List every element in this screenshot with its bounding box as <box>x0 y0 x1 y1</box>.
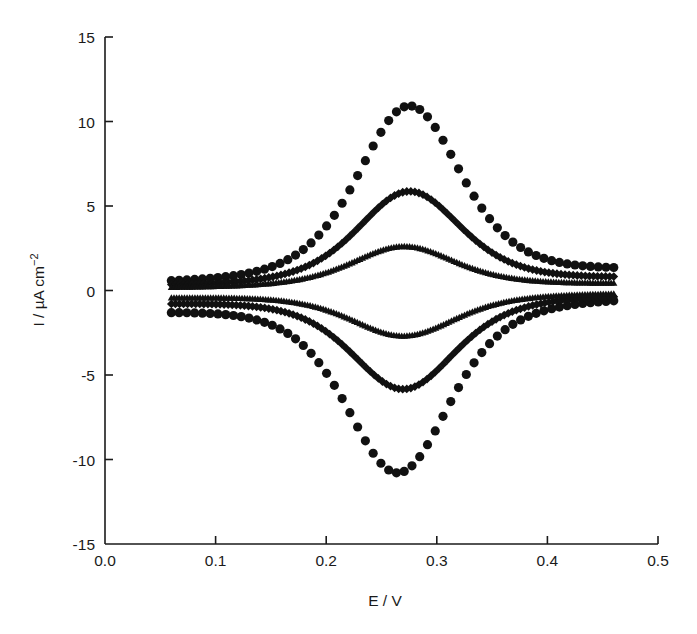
axes <box>105 37 658 544</box>
data-point-circle <box>314 358 323 367</box>
y-tick-label: -10 <box>73 452 96 469</box>
data-point-circle <box>415 105 424 114</box>
data-point-circle <box>539 254 548 263</box>
data-point-circle <box>392 468 401 477</box>
y-axis-title-main: I / µA cm <box>30 266 47 327</box>
data-point-circle <box>446 150 455 159</box>
data-point-circle <box>392 107 401 116</box>
x-tick-label: 0.3 <box>426 552 448 569</box>
data-point-circle <box>493 223 502 232</box>
data-point-circle <box>563 259 572 268</box>
data-point-circle <box>314 230 323 239</box>
y-tick-label: -5 <box>81 367 95 384</box>
data-point-circle <box>609 263 618 272</box>
data-point-circle <box>462 370 471 379</box>
data-point-circle <box>508 320 517 329</box>
data-point-circle <box>299 245 308 254</box>
data-point-circle <box>291 250 300 259</box>
cyclic-voltammogram-chart: -15-10-5051015 0.00.10.20.30.40.5 E / V … <box>0 0 697 634</box>
x-axis-ticks: 0.00.10.20.30.40.5 <box>94 536 669 569</box>
data-point-circle <box>252 315 261 324</box>
data-point-circle <box>508 238 517 247</box>
data-point-circle <box>283 329 292 338</box>
data-point-circle <box>369 449 378 458</box>
data-point-circle <box>353 171 362 180</box>
data-point-circle <box>322 221 331 230</box>
x-axis-title: E / V <box>368 592 402 609</box>
data-point-circle <box>376 459 385 468</box>
data-point-circle <box>306 349 315 358</box>
data-point-circle <box>400 102 409 111</box>
data-point-circle <box>299 341 308 350</box>
y-tick-label: 10 <box>78 114 96 131</box>
data-point-circle <box>345 408 354 417</box>
data-point-circle <box>345 185 354 194</box>
y-tick-label: 15 <box>78 29 95 46</box>
data-point-circle <box>306 238 315 247</box>
data-point-circle <box>532 309 541 318</box>
data-point-circle <box>454 383 463 392</box>
data-point-circle <box>237 312 246 321</box>
data-point-circle <box>501 325 510 334</box>
data-point-circle <box>291 334 300 343</box>
data-point-circle <box>361 156 370 165</box>
data-point-circle <box>501 231 510 240</box>
y-tick-label: -15 <box>73 536 95 553</box>
data-point-circle <box>283 255 292 264</box>
data-point-circle <box>369 141 378 150</box>
data-point-circle <box>244 313 253 322</box>
data-point-circle <box>547 256 556 265</box>
x-tick-label: 0.4 <box>537 552 559 569</box>
data-point-circle <box>485 214 494 223</box>
data-point-circle <box>322 369 331 378</box>
y-tick-label: 5 <box>86 198 95 215</box>
data-point-circle <box>469 192 478 201</box>
data-point-circle <box>275 324 284 333</box>
data-point-circle <box>446 397 455 406</box>
data-point-circle <box>493 331 502 340</box>
data-point-circle <box>221 310 230 319</box>
data-point-circle <box>570 260 579 269</box>
data-point-circle <box>415 452 424 461</box>
x-tick-label: 0.1 <box>205 552 227 569</box>
data-point-circle <box>407 461 416 470</box>
data-point-circle <box>423 112 432 121</box>
x-tick-label: 0.5 <box>647 552 669 569</box>
data-point-circle <box>477 204 486 213</box>
data-point-circle <box>384 116 393 125</box>
data-point-circle <box>229 311 238 320</box>
y-axis-title: I / µA cm−2 <box>28 253 47 326</box>
data-point-circle <box>469 358 478 367</box>
data-point-circle <box>353 422 362 431</box>
data-point-circle <box>330 381 339 390</box>
data-point-circle <box>477 348 486 357</box>
x-tick-label: 0.2 <box>315 552 337 569</box>
data-point-circle <box>423 440 432 449</box>
data-point-circle <box>338 199 347 208</box>
x-tick-label: 0.0 <box>94 552 116 569</box>
data-point-circle <box>338 394 347 403</box>
y-tick-label: 0 <box>86 283 95 300</box>
data-point-circle <box>376 128 385 137</box>
y-axis-ticks: -15-10-5051015 <box>73 29 113 553</box>
data-point-circle <box>431 123 440 132</box>
data-point-circle <box>252 267 261 276</box>
data-point-circle <box>431 426 440 435</box>
data-point-circle <box>438 136 447 145</box>
plot-markers <box>167 101 619 477</box>
data-point-circle <box>462 178 471 187</box>
data-point-circle <box>361 436 370 445</box>
data-point-circle <box>400 467 409 476</box>
data-point-circle <box>555 258 564 267</box>
y-axis-title-superscript: −2 <box>28 253 40 266</box>
data-point-circle <box>485 339 494 348</box>
data-point-circle <box>330 211 339 220</box>
data-point-circle <box>454 164 463 173</box>
data-point-circle <box>438 412 447 421</box>
data-point-circle <box>516 243 525 252</box>
